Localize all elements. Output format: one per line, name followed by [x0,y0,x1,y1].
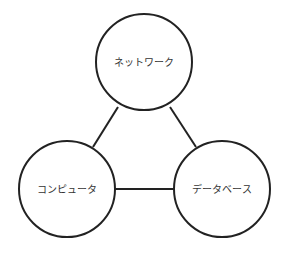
node-computer-label: コンピュータ [37,184,97,195]
edge-network-database [170,107,196,147]
network-diagram: ネットワーク コンピュータ データベース [0,0,286,258]
node-network: ネットワーク [96,14,192,110]
node-computer: コンピュータ [19,141,115,237]
node-network-label: ネットワーク [114,57,174,68]
node-database: データベース [174,141,270,237]
edge-network-computer [93,107,118,147]
node-database-label: データベース [192,183,252,195]
